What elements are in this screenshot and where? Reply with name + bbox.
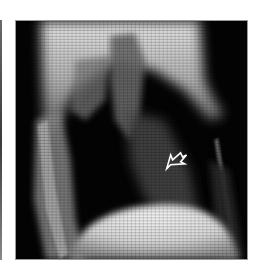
- adjacent-image-edge: [0, 20, 2, 260]
- radiograph: [16, 21, 247, 259]
- xray-image: [15, 20, 248, 260]
